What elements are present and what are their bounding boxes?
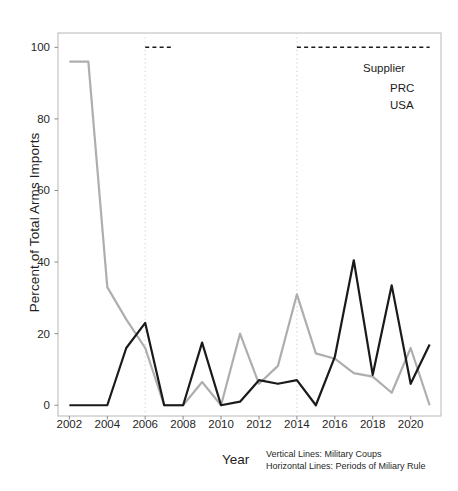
- y-tick-label-80: 80: [10, 113, 50, 125]
- legend-swatch-prc: [363, 83, 383, 92]
- y-tick-label-20: 20: [10, 328, 50, 340]
- y-tick-label-40: 40: [10, 256, 50, 268]
- chart-caption: Vertical Lines: Military Coups Horizonta…: [266, 449, 426, 472]
- x-axis-title: Year: [222, 452, 249, 467]
- y-tick-label-0: 0: [10, 399, 50, 411]
- x-tick-label-2014: 2014: [284, 418, 310, 430]
- x-tick-label-2010: 2010: [208, 418, 234, 430]
- x-tick-label-2002: 2002: [57, 418, 83, 430]
- legend-item-prc[interactable]: PRC: [363, 79, 451, 96]
- legend-item-usa[interactable]: USA: [363, 96, 451, 113]
- caption-line-horizontal: Horizontal Lines: Periods of Miliary Rul…: [266, 461, 426, 473]
- legend-label-prc: PRC: [390, 82, 414, 94]
- legend-label-usa: USA: [390, 99, 414, 111]
- y-tick-label-60: 60: [10, 184, 50, 196]
- arms-imports-line-chart: Percent of Total Arms Imports 0204060801…: [0, 0, 458, 491]
- legend: Supplier PRC USA: [355, 62, 451, 113]
- x-tick-label-2020: 2020: [398, 418, 424, 430]
- x-tick-label-2004: 2004: [95, 418, 121, 430]
- caption-line-vertical: Vertical Lines: Military Coups: [266, 449, 426, 461]
- x-tick-label-2016: 2016: [322, 418, 348, 430]
- x-tick-label-2006: 2006: [132, 418, 158, 430]
- x-tick-label-2012: 2012: [246, 418, 272, 430]
- x-tick-label-2018: 2018: [360, 418, 386, 430]
- y-tick-labels: 020406080100: [10, 0, 50, 491]
- legend-swatch-usa: [363, 100, 383, 109]
- legend-title: Supplier: [363, 62, 451, 74]
- x-tick-label-2008: 2008: [170, 418, 196, 430]
- y-tick-label-100: 100: [10, 41, 50, 53]
